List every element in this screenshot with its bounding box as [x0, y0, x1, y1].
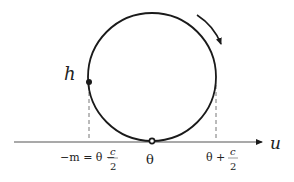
point-h-label: h: [64, 63, 76, 84]
center-tick-label: θ: [146, 152, 154, 167]
point-theta: [149, 138, 154, 143]
right-tick-frac-num: c: [230, 146, 236, 157]
left-tick-frac-num: c: [110, 146, 116, 157]
clockwise-arrow-icon: [197, 15, 221, 44]
circle: [88, 13, 216, 141]
left-tick-prefix: −m = θ −: [60, 151, 115, 164]
u-axis-label: u: [270, 133, 281, 153]
circle-diagram: u h −m = θ − c 2 θ θ + c 2: [0, 0, 294, 182]
right-tick-prefix: θ +: [206, 151, 225, 164]
left-tick-frac-den: 2: [110, 161, 116, 172]
right-tick-frac-den: 2: [230, 161, 236, 172]
point-h: [86, 79, 92, 85]
